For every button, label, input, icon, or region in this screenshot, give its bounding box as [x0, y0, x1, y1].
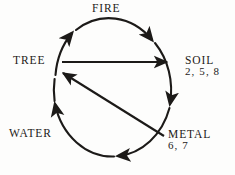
node-label-soil: SOIL 2, 5, 8: [185, 54, 220, 78]
node-label-water-text: WATER: [9, 127, 52, 139]
arc-water-to-tree: [55, 104, 114, 157]
node-numbers-soil: 2, 5, 8: [185, 66, 220, 78]
arc-tree-to-fire: [56, 33, 73, 75]
node-label-metal-text: METAL: [168, 128, 211, 140]
node-label-fire-text: FIRE: [92, 2, 121, 14]
arc-fire-to-soil: [76, 18, 152, 40]
node-label-tree-text: TREE: [13, 54, 45, 66]
node-numbers-metal: 6, 7: [168, 140, 211, 152]
node-label-fire: FIRE: [92, 2, 121, 14]
arrow-metal-to-tree: [63, 73, 164, 136]
node-label-metal: METAL 6, 7: [168, 128, 211, 152]
arc-metal-to-water: [118, 108, 170, 156]
node-label-tree: TREE: [13, 54, 45, 66]
wuxing-cycle-diagram: FIRE TREE SOIL 2, 5, 8 WATER METAL 6, 7: [0, 0, 235, 175]
arc-left-closure: [54, 79, 55, 101]
cycle-circle-group: [54, 18, 171, 156]
arc-soil-to-metal: [155, 43, 171, 104]
node-label-soil-text: SOIL: [185, 54, 214, 66]
node-label-water: WATER: [9, 127, 52, 139]
